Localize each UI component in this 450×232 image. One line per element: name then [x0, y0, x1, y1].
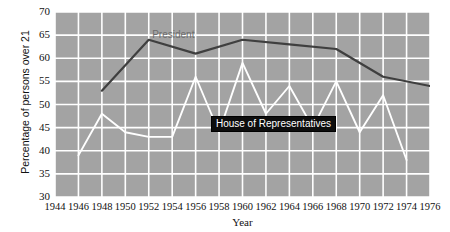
x-tick-label: 1952 [136, 201, 162, 212]
chart-svg [55, 12, 430, 197]
y-tick-label: 45 [20, 122, 50, 133]
x-tick-label: 1954 [159, 201, 185, 212]
y-tick-label: 50 [20, 99, 50, 110]
x-tick-label: 1966 [300, 201, 326, 212]
x-tick-label: 1948 [89, 201, 115, 212]
chart-container: Percentage of persons over 21 Year 30354… [0, 0, 450, 232]
x-tick-label: 1974 [394, 201, 420, 212]
x-tick-label: 1976 [417, 201, 443, 212]
y-tick-label: 60 [20, 52, 50, 63]
y-tick-label: 70 [20, 6, 50, 17]
series-label-house: House of Representatives [211, 116, 336, 132]
series-label-president: President [152, 29, 194, 40]
x-tick-label: 1962 [253, 201, 279, 212]
y-tick-label: 35 [20, 168, 50, 179]
x-tick-label: 1950 [112, 201, 138, 212]
x-tick-label: 1956 [183, 201, 209, 212]
x-tick-label: 1960 [230, 201, 256, 212]
x-tick-label: 1968 [323, 201, 349, 212]
y-tick-label: 55 [20, 75, 50, 86]
x-tick-label: 1946 [65, 201, 91, 212]
y-tick-label: 40 [20, 145, 50, 156]
x-tick-label: 1944 [42, 201, 68, 212]
plot-area [55, 12, 430, 197]
x-tick-label: 1972 [370, 201, 396, 212]
x-tick-label: 1958 [206, 201, 232, 212]
x-tick-label: 1970 [347, 201, 373, 212]
x-axis-title: Year [55, 216, 430, 228]
y-tick-label: 65 [20, 29, 50, 40]
x-tick-label: 1964 [276, 201, 302, 212]
